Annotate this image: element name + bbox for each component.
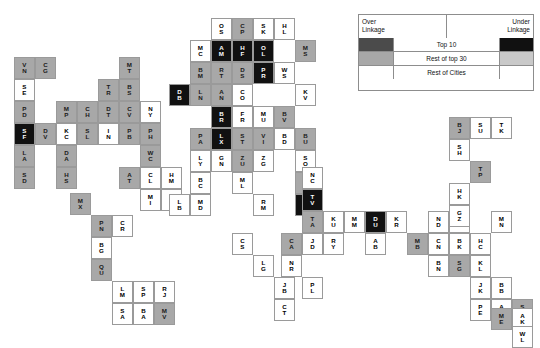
city-cell-letter-2: N (219, 95, 224, 101)
legend-header-under-line1: Under (450, 18, 530, 26)
city-cell-letter-2: T (283, 310, 287, 316)
city-cell-letter-2: B (499, 288, 504, 294)
city-cell: LY (190, 150, 211, 172)
legend-header-row: Over Linkage Under Linkage (359, 15, 533, 38)
city-cell: HS (56, 167, 77, 189)
city-cell-letter-2: M (169, 178, 174, 184)
city-cell-letter-2: L (149, 178, 153, 184)
city-cell: CR (112, 215, 133, 237)
city-cell-letter-2: P (141, 292, 145, 298)
city-cell: KL (470, 255, 491, 277)
city-cell-letter-2: K (499, 128, 504, 134)
city-cell: OL (253, 40, 274, 62)
city-cell: SU (470, 117, 491, 139)
legend-row-rest-of-cities: Rest of Cities (359, 65, 533, 79)
city-cell-letter-2: F (23, 134, 27, 140)
city-cell-letter-2: M (120, 292, 125, 298)
city-cell-letter-2: V (303, 95, 307, 101)
city-cell-letter-2: T (128, 68, 132, 74)
city-cell: QU (91, 259, 112, 281)
city-cell: SD (14, 167, 35, 189)
city-cell-letter-2: R (289, 266, 294, 272)
city-cell: RM (253, 194, 274, 216)
city-cell-letter-2: A (64, 156, 69, 162)
city-cell: JB (274, 277, 295, 299)
city-cell: KC (56, 123, 77, 145)
city-cell: KV (295, 84, 316, 106)
city-cell: CT (274, 299, 295, 321)
city-cell: ZG (253, 150, 274, 172)
city-cell-letter-2: B (282, 288, 287, 294)
legend-row-top10: Top 10 (359, 38, 533, 51)
city-cell: HM (161, 167, 182, 189)
city-cell: TR (98, 79, 119, 101)
city-cell: ME (491, 308, 512, 330)
city-cell: BN (428, 255, 449, 277)
city-cell-letter-2: D (282, 139, 287, 145)
city-cell: PH (140, 123, 161, 145)
city-cell-letter-2: R (240, 117, 245, 123)
city-cell-letter-2: C (198, 51, 203, 57)
city-cell: TP (470, 161, 491, 183)
city-cell: NY (140, 101, 161, 123)
city-cell: CO (232, 84, 253, 106)
city-cell-letter-2: H (85, 112, 90, 118)
city-cell: MI (140, 189, 161, 211)
city-cell-letter-2: B (127, 134, 132, 140)
city-cell-letter-2: P (240, 29, 244, 35)
city-cell-letter-2: B (373, 244, 378, 250)
city-cell-letter-2: J (163, 292, 167, 298)
city-cell-letter-2: N (436, 266, 441, 272)
city-cell: KR (386, 211, 407, 233)
city-cell: IN (98, 123, 119, 145)
city-cell-letter-2: K (478, 288, 483, 294)
city-cell: BG (91, 237, 112, 259)
city-cell: GZ (449, 205, 470, 227)
city-cell: DB (169, 84, 190, 106)
city-cell-letter-2: S (219, 29, 223, 35)
city-cell: CA (281, 233, 302, 255)
city-cell-letter-2: L (86, 134, 90, 140)
city-cell-letter-2: J (458, 128, 462, 134)
city-cell-letter-2: I (263, 139, 265, 145)
legend-swatch-under-top10 (499, 38, 533, 51)
city-cell-letter-2: L (283, 29, 287, 35)
city-cell-letter-2: T (107, 112, 111, 118)
city-cell: LB (169, 194, 190, 216)
city-cell: MV (154, 303, 175, 325)
city-cell: MB (407, 233, 428, 255)
city-cell-letter-2: G (99, 248, 104, 254)
city-cell: PL (302, 277, 323, 299)
city-cell: AB (365, 233, 386, 255)
city-cell: AN (211, 84, 232, 106)
legend-label-top10: Top 10 (393, 38, 499, 51)
legend-label-rest-of-top-30: Rest of top 30 (393, 52, 499, 65)
city-cell: BJ (449, 117, 470, 139)
city-cell: LG (253, 255, 274, 277)
city-cell: DS (232, 62, 253, 84)
city-cell: DU (365, 211, 386, 233)
city-cell: LN (190, 84, 211, 106)
city-cell: SL (77, 123, 98, 145)
city-cell-letter-2: Y (198, 161, 202, 167)
legend-header-over-line2: Linkage (362, 26, 443, 34)
city-cell: CL (140, 167, 161, 189)
city-cell-letter-2: N (436, 244, 441, 250)
legend-swatch-over-rest (359, 66, 393, 79)
city-cell-letter-2: P (478, 172, 482, 178)
city-cell-letter-2: R (261, 73, 266, 79)
city-cell-letter-2: G (261, 161, 266, 167)
city-cell-letter-2: E (499, 319, 503, 325)
city-cell: GN (211, 150, 232, 172)
city-cell: CH (77, 101, 98, 123)
city-cell: LA (14, 145, 35, 167)
legend: Over Linkage Under Linkage Top 10 Rest o… (358, 14, 534, 91)
city-cell-letter-2: H (457, 150, 462, 156)
city-cell-letter-2: A (310, 222, 315, 228)
city-cell-letter-2: C (478, 244, 483, 250)
city-cell-letter-2: M (352, 222, 357, 228)
city-cell-letter-2: G (457, 266, 462, 272)
city-cell: ND (428, 211, 449, 233)
city-cell: MP (56, 101, 77, 123)
city-cell: SE (14, 79, 35, 101)
